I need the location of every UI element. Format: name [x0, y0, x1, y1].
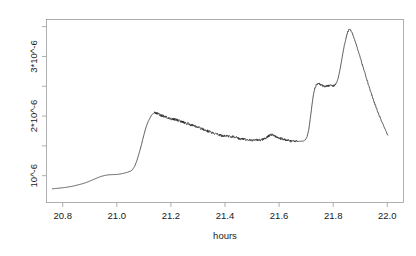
x-tick-label: 21.2	[162, 210, 181, 221]
x-tick-label: 21.4	[216, 210, 235, 221]
x-tick-label: 21.8	[324, 210, 343, 221]
line-chart: 20.821.021.221.421.621.822.0 10^-62*10^-…	[0, 0, 416, 256]
x-tick-label: 21.0	[108, 210, 127, 221]
x-tick-label: 20.8	[53, 210, 72, 221]
y-tick-label: 3*10^-6	[28, 40, 39, 72]
x-axis-title: hours	[213, 230, 237, 241]
x-tick-label: 22.0	[378, 210, 397, 221]
chart-screenshot: 20.821.021.221.421.621.822.0 10^-62*10^-…	[0, 0, 416, 256]
y-axis-tick-labels: 10^-62*10^-63*10^-6	[28, 40, 39, 187]
y-tick-label: 10^-6	[28, 164, 39, 187]
y-tick-label: 2*10^-6	[28, 100, 39, 132]
x-tick-label: 21.6	[270, 210, 289, 221]
